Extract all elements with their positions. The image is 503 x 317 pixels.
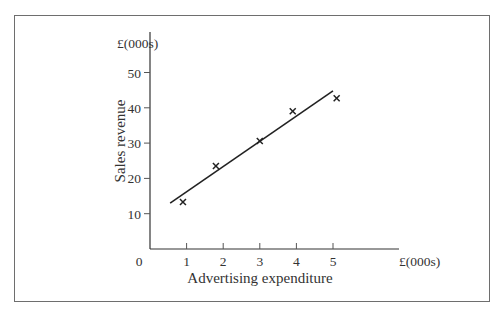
origin-label: 0 [136, 254, 143, 269]
axes [150, 32, 399, 249]
y-axis-ticks: 1020304050 [128, 66, 151, 222]
x-marker-icon [213, 163, 219, 169]
x-tick-label: 2 [220, 254, 227, 269]
x-tick-label: 4 [293, 254, 300, 269]
x-tick-label: 3 [256, 254, 263, 269]
scatter-chart: 1020304050 12345 £(000s) £(000s) 0 Adver… [0, 0, 503, 317]
x-marker-icon [180, 199, 186, 205]
x-marker-icon [290, 108, 296, 114]
y-tick-label: 20 [128, 171, 142, 186]
x-axis-title: Advertising expenditure [187, 270, 333, 286]
y-axis-title: Sales revenue [112, 99, 128, 182]
x-marker-icon [257, 138, 263, 144]
y-tick-label: 10 [128, 207, 142, 222]
x-axis-ticks: 12345 [183, 243, 336, 269]
y-axis-unit: £(000s) [117, 36, 158, 51]
y-tick-label: 50 [128, 66, 142, 81]
x-marker-icon [334, 95, 340, 101]
regression-line [170, 91, 333, 203]
x-tick-label: 5 [330, 254, 337, 269]
y-tick-label: 30 [128, 136, 142, 151]
fit-line [170, 91, 333, 203]
data-points [180, 95, 340, 205]
x-axis-unit: £(000s) [399, 254, 440, 269]
y-tick-label: 40 [128, 101, 142, 116]
x-tick-label: 1 [183, 254, 190, 269]
